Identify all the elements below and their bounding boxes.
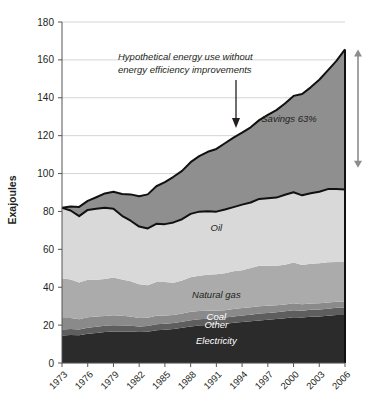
energy-use-area-chart: 020406080100120140160180 197319761979198… — [0, 0, 378, 414]
y-axis-title: Exajoules — [6, 175, 18, 224]
band-label-oil: Oil — [211, 222, 224, 233]
y-tick-label: 120 — [37, 130, 54, 141]
savings-label: Savings 63% — [261, 113, 317, 124]
y-tick-label: 0 — [48, 358, 54, 369]
y-tick-label: 40 — [43, 282, 55, 293]
y-tick-label: 140 — [37, 92, 54, 103]
band-label-electricity: Electricity — [196, 335, 238, 346]
y-tick-label: 60 — [43, 244, 55, 255]
y-tick-label: 80 — [43, 206, 55, 217]
y-tick-label: 100 — [37, 168, 54, 179]
band-label-natural-gas: Natural gas — [192, 289, 241, 300]
annotation-line-1: Hypothetical energy use without — [118, 51, 253, 62]
y-tick-label: 160 — [37, 54, 54, 65]
band-label-other: Other — [204, 319, 229, 330]
chart-canvas: 020406080100120140160180 197319761979198… — [0, 0, 378, 414]
y-tick-label: 180 — [37, 17, 54, 28]
annotation-line-2: energy efficiency improvements — [118, 64, 252, 75]
y-tick-label: 20 — [43, 320, 55, 331]
